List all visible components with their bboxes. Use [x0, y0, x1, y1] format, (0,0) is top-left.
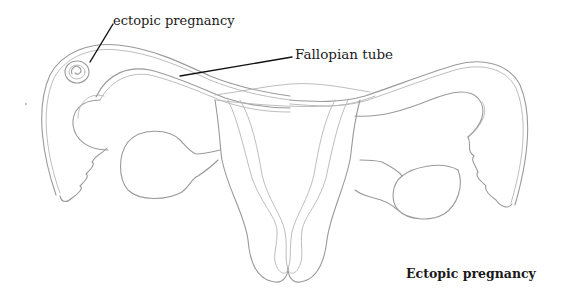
uterus-right-wall: [288, 100, 360, 282]
right-ovary: [355, 160, 460, 219]
left-ovary: [121, 131, 221, 198]
ectopic-leader-line: [90, 24, 113, 62]
stray-mark: [25, 103, 27, 105]
ectopic-pregnancy-label: ectopic pregnancy: [113, 13, 235, 28]
uterus-illustration: [0, 0, 565, 303]
fallopian-leader-line: [180, 57, 292, 76]
left-fallopian-tube: [42, 44, 290, 201]
right-fallopian-tube: [290, 62, 528, 207]
uterus-diagram: ectopic pregnancy Fallopian tube Ectopic…: [0, 0, 565, 303]
diagram-caption: Ectopic pregnancy: [406, 266, 536, 281]
uterine-fundus: [215, 84, 375, 107]
fallopian-tube-label: Fallopian tube: [295, 46, 393, 62]
ectopic-embryo: [65, 61, 89, 83]
uterus-left-wall: [215, 100, 288, 282]
